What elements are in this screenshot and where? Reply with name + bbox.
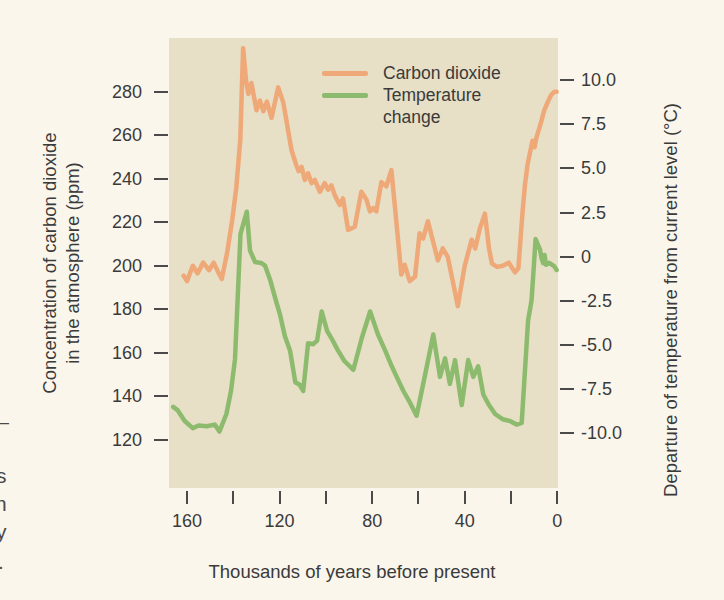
x-axis-tick: [510, 491, 512, 504]
right-axis-tick-label: -7.5: [581, 379, 641, 399]
x-axis-tick: [232, 491, 234, 504]
right-axis-tick-label: 0: [581, 247, 641, 267]
x-axis-tick-label: 160: [155, 511, 219, 531]
left-axis-tick: [154, 178, 168, 180]
left-axis-tick-label: 180: [86, 299, 142, 319]
x-axis-tick-label: 0: [525, 511, 589, 531]
legend-item-temperature: Temperature change: [322, 84, 515, 128]
x-axis-tick: [556, 491, 558, 504]
clipped-text-fragment: y: [0, 521, 7, 542]
left-axis-tick-label: 160: [86, 343, 142, 363]
right-axis-tick: [560, 123, 574, 125]
right-axis-tick: [560, 79, 574, 81]
right-axis-tick-label: -10.0: [581, 423, 641, 443]
clipped-text-fragment: s: [0, 465, 7, 486]
left-axis-tick-label: 240: [86, 169, 142, 189]
left-axis-tick-label: 120: [86, 430, 142, 450]
x-axis-tick-label: 40: [433, 511, 497, 531]
left-axis-tick: [154, 439, 168, 441]
right-axis-tick-label: 10.0: [581, 70, 641, 90]
right-axis-tick: [560, 344, 574, 346]
temperature-line-swatch: [322, 93, 368, 98]
left-axis-tick-label: 200: [86, 256, 142, 276]
left-axis-title: Concentration of carbon dioxide in the a…: [38, 103, 84, 423]
x-axis-title: Thousands of years before present: [202, 561, 502, 583]
left-axis-tick-label: 280: [86, 82, 142, 102]
left-axis-tick: [154, 352, 168, 354]
right-axis-tick-label: -5.0: [581, 335, 641, 355]
legend-item-co2: Carbon dioxide: [322, 62, 515, 84]
x-axis-tick: [186, 491, 188, 504]
x-axis-tick: [464, 491, 466, 504]
right-axis-tick: [560, 256, 574, 258]
right-axis-tick-label: 7.5: [581, 114, 641, 134]
right-axis-tick-label: 5.0: [581, 158, 641, 178]
left-axis-tick: [154, 91, 168, 93]
left-axis-tick: [154, 221, 168, 223]
x-axis-tick-label: 120: [248, 511, 312, 531]
legend-label-co2: Carbon dioxide: [383, 62, 515, 84]
plot-area: Carbon dioxide Temperature change: [169, 38, 558, 488]
left-axis-tick-label: 140: [86, 386, 142, 406]
x-axis-tick: [325, 491, 327, 504]
left-axis-tick: [154, 265, 168, 267]
right-axis-title: Departure of temperature from current le…: [659, 50, 683, 550]
temperature-curve: [173, 212, 556, 432]
clipped-text-fragment: n: [0, 493, 7, 514]
co2-line-swatch: [322, 71, 368, 76]
clipped-text-fragment: .: [0, 551, 4, 572]
clipped-text-fragment: —: [0, 411, 9, 432]
right-axis-tick: [560, 432, 574, 434]
right-axis-tick: [560, 167, 574, 169]
left-axis-tick: [154, 308, 168, 310]
left-axis-tick-label: 260: [86, 125, 142, 145]
right-axis-tick: [560, 388, 574, 390]
right-axis-tick-label: 2.5: [581, 203, 641, 223]
x-axis-tick-label: 80: [340, 511, 404, 531]
right-axis-tick-label: -2.5: [581, 291, 641, 311]
x-axis-tick: [279, 491, 281, 504]
x-axis-tick: [371, 491, 373, 504]
left-axis-tick: [154, 134, 168, 136]
x-axis-tick: [417, 491, 419, 504]
left-axis-title-line2: in the atmosphere (ppm): [61, 103, 84, 423]
left-axis-tick-label: 220: [86, 212, 142, 232]
legend: Carbon dioxide Temperature change: [322, 62, 515, 128]
figure-co2-temperature-chart: —sny. Carbon dioxide Temperature change …: [0, 0, 724, 600]
right-axis-tick: [560, 212, 574, 214]
left-axis-tick: [154, 395, 168, 397]
page-edge-text-fragments: —sny.: [0, 0, 20, 600]
right-axis-tick: [560, 300, 574, 302]
left-axis-title-line1: Concentration of carbon dioxide: [38, 103, 61, 423]
legend-label-temperature: Temperature change: [383, 84, 515, 128]
